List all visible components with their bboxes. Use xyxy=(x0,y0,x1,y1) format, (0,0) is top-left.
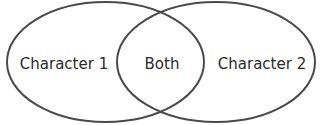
left-set-label: Character 1 xyxy=(20,55,108,73)
intersection-label: Both xyxy=(145,55,180,73)
venn-diagram: Character 1 Both Character 2 xyxy=(0,0,322,125)
right-set-label: Character 2 xyxy=(218,55,306,73)
